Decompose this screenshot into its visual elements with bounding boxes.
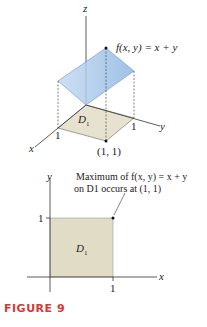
annotation-line2: on D1 occurs at (1, 1) [74,184,161,194]
z-axis-label: z [83,3,87,14]
figure-caption: FIGURE 9 [4,302,65,315]
y-axis-label-3d: y [160,121,165,132]
annotation-leader [114,193,125,215]
region-label-3d: D1 [78,114,89,128]
y-tick-2d: 1 [38,213,44,224]
region-label-2d: D1 [76,243,87,257]
max-point-2d [112,217,115,220]
point-label-3d: (1, 1) [97,146,121,157]
function-label: f(x, y) = x + y [116,42,177,53]
max-point-3d [105,47,108,50]
y-axis-label-2d: y [47,171,52,182]
x-tick-3d: 1 [55,130,61,141]
x-axis-label-2d: x [159,271,164,282]
region-d1-3d [58,105,134,141]
point-1-1-3d [105,140,108,143]
annotation-line1: Maximum of f(x, y) = x + y [76,172,187,182]
figure-3d [35,16,160,147]
plane-surface [58,48,134,105]
figure-2d [27,178,157,292]
x-tick-2d: 1 [110,283,116,294]
y-tick-3d: 1 [131,121,137,132]
x-axis-label-3d: x [29,143,34,154]
